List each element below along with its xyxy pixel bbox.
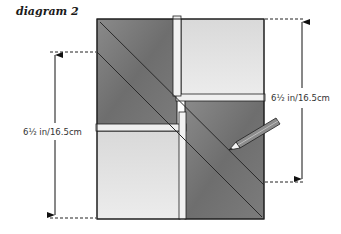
light-square-top-right — [181, 19, 264, 95]
right-dimension-label: 6½ in/16.5cm — [271, 93, 330, 103]
dark-square-top-left — [97, 19, 177, 130]
seam-allowance-vertical-bottom — [179, 112, 186, 219]
seam-allowance-top-right — [176, 94, 265, 101]
quilt-diagram: 6½ in/16.5cm 6½ in/16.5cm — [0, 0, 341, 234]
light-square-bottom-left — [97, 131, 180, 219]
seam-allowance-vertical-top — [173, 16, 181, 96]
left-dimension-label: 6½ in/16.5cm — [23, 127, 82, 137]
